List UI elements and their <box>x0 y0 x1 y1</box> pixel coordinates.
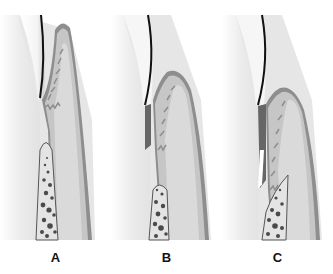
panel-label-b: B <box>111 250 222 265</box>
diagram-b <box>111 0 222 274</box>
panel-c: C <box>222 0 333 274</box>
diagram-c <box>222 0 333 274</box>
diagram-a <box>0 0 111 274</box>
panel-a: A <box>0 0 111 274</box>
panel-label-c: C <box>222 250 333 265</box>
panel-label-a: A <box>0 250 111 265</box>
panel-b: B <box>111 0 222 274</box>
junctional-epithelium <box>145 104 151 150</box>
